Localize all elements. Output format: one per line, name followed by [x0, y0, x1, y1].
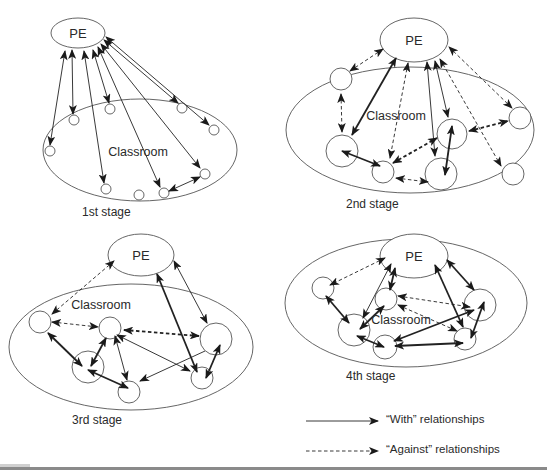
pe-label: PE	[405, 250, 422, 263]
student-node	[72, 351, 104, 383]
legend	[306, 421, 378, 451]
legend-against-label: “Against” relationships	[386, 444, 500, 456]
student-node	[209, 125, 219, 135]
with-relationship-arrow	[50, 51, 65, 145]
stage-label: 4th stage	[346, 370, 395, 382]
student-node	[69, 115, 79, 125]
against-relationship-arrow	[469, 121, 508, 131]
pe-label: PE	[405, 34, 422, 47]
student-node	[200, 323, 232, 355]
with-relationship-arrow	[93, 50, 109, 103]
student-node	[101, 184, 111, 194]
stage-label: 3rd stage	[72, 414, 122, 426]
student-node	[29, 311, 51, 333]
student-node	[159, 188, 169, 198]
against-relationship-arrow	[449, 47, 512, 108]
pe-label: PE	[69, 27, 86, 40]
student-node	[502, 163, 524, 185]
stage-3-group	[9, 234, 253, 410]
against-relationship-arrow	[398, 296, 470, 307]
pe-label: PE	[132, 249, 149, 262]
student-node	[437, 119, 467, 149]
student-node	[105, 104, 115, 114]
classroom-label: Classroom	[108, 146, 168, 159]
with-relationship-arrow	[117, 335, 190, 371]
student-node	[425, 158, 457, 190]
relationship-diagram	[0, 0, 547, 472]
against-relationship-arrow	[341, 94, 342, 132]
student-node	[312, 277, 334, 299]
stage-label: 1st stage	[82, 206, 131, 218]
student-node	[375, 288, 397, 310]
student-node	[330, 68, 352, 90]
against-relationship-arrow	[124, 330, 199, 336]
against-relationship-arrow	[393, 138, 437, 163]
legend-with-label: “With” relationships	[386, 414, 484, 426]
classroom-label: Classroom	[366, 110, 426, 123]
against-relationship-arrow	[52, 322, 98, 327]
with-relationship-arrow	[98, 47, 160, 187]
with-relationship-arrow	[84, 51, 104, 183]
bottom-rule	[0, 467, 547, 470]
with-relationship-arrow	[174, 261, 207, 323]
stage-1-group	[43, 18, 237, 201]
against-relationship-arrow	[350, 49, 383, 71]
with-relationship-arrow	[115, 336, 127, 380]
with-relationship-arrow	[48, 333, 82, 366]
with-relationship-arrow	[326, 296, 349, 323]
against-relationship-arrow	[396, 178, 428, 182]
student-node	[464, 289, 496, 321]
against-relationship-arrow	[330, 258, 385, 285]
with-relationship-arrow	[447, 260, 474, 290]
stage-label: 2nd stage	[346, 198, 399, 210]
with-relationship-arrow	[72, 50, 73, 114]
classroom-label: Classroom	[71, 299, 131, 312]
student-node	[373, 335, 397, 359]
with-relationship-arrow	[169, 177, 200, 191]
student-node	[338, 314, 370, 346]
student-node	[509, 107, 531, 129]
student-node	[200, 169, 210, 179]
with-relationship-arrow	[395, 343, 463, 346]
with-relationship-arrow	[106, 37, 209, 125]
student-node	[134, 190, 144, 200]
student-node	[45, 146, 55, 156]
classroom-label: Classroom	[371, 314, 431, 327]
classroom-ellipse	[286, 67, 534, 193]
